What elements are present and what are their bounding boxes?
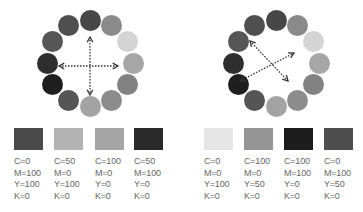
- yellow-value: Y=0: [284, 179, 311, 191]
- color-swatch: [14, 128, 43, 150]
- color-swatch: [95, 128, 124, 150]
- cmyk-label: C=100 M=0 Y=50 K=0: [244, 156, 270, 202]
- black-value: K=0: [244, 191, 270, 203]
- yellow-value: Y=100: [54, 179, 79, 191]
- color-swatch: [54, 128, 83, 150]
- black-value: K=0: [14, 191, 41, 203]
- cmyk-label: C=0 M=100 Y=100 K=0: [14, 156, 41, 202]
- magenta-value: M=0: [95, 168, 121, 180]
- color-swatch: [204, 128, 233, 150]
- cyan-value: C=100: [244, 156, 270, 168]
- color-swatch: [324, 128, 353, 150]
- cyan-value: C=50: [134, 156, 161, 168]
- double-arrow-icon: [216, 3, 336, 123]
- color-swatch: [244, 128, 273, 150]
- magenta-value: M=100: [14, 168, 41, 180]
- magenta-value: M=100: [324, 168, 351, 180]
- magenta-value: M=0: [244, 168, 270, 180]
- black-value: K=0: [324, 191, 351, 203]
- yellow-value: Y=0: [134, 179, 161, 191]
- cyan-value: C=0: [324, 156, 351, 168]
- left-color-wheel: [30, 3, 150, 123]
- yellow-value: Y=50: [244, 179, 270, 191]
- cmyk-label: C=100 M=0 Y=0 K=0: [95, 156, 121, 202]
- magenta-value: M=100: [284, 168, 311, 180]
- cmyk-label: C=0 M=100 Y=50 K=0: [324, 156, 351, 202]
- yellow-value: Y=50: [324, 179, 351, 191]
- black-value: K=0: [134, 191, 161, 203]
- black-value: K=0: [204, 191, 229, 203]
- right-color-wheel: [216, 3, 336, 123]
- cmyk-label: C=100 M=100 Y=0 K=0: [284, 156, 311, 202]
- yellow-value: Y=0: [95, 179, 121, 191]
- cyan-value: C=100: [95, 156, 121, 168]
- yellow-value: Y=100: [204, 179, 229, 191]
- cmyk-label: C=50 M=100 Y=0 K=0: [134, 156, 161, 202]
- yellow-value: Y=100: [14, 179, 41, 191]
- magenta-value: M=100: [134, 168, 161, 180]
- cmyk-label: C=50 M=0 Y=100 K=0: [54, 156, 79, 202]
- magenta-value: M=0: [54, 168, 79, 180]
- cmyk-label: C=0 M=0 Y=100 K=0: [204, 156, 229, 202]
- black-value: K=0: [284, 191, 311, 203]
- black-value: K=0: [54, 191, 79, 203]
- cyan-value: C=0: [14, 156, 41, 168]
- double-arrow-icon: [30, 3, 150, 123]
- cyan-value: C=50: [54, 156, 79, 168]
- cyan-value: C=0: [204, 156, 229, 168]
- color-swatch: [284, 128, 313, 150]
- black-value: K=0: [95, 191, 121, 203]
- magenta-value: M=0: [204, 168, 229, 180]
- color-swatch: [134, 128, 163, 150]
- cyan-value: C=100: [284, 156, 311, 168]
